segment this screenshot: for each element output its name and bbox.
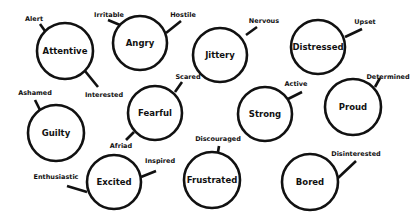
emotion-label-distressed: Distressed (292, 42, 343, 52)
emotion-label-attentive: Attentive (43, 46, 88, 56)
related-emotion-label: Upset (354, 18, 375, 26)
related-emotion-label: Active (285, 80, 308, 88)
emotion-label-angry: Angry (126, 38, 154, 48)
spoke-line (246, 27, 257, 35)
diagram-graphics (0, 0, 420, 224)
spoke-line (67, 186, 87, 192)
related-emotion-label: Enthusiastic (34, 173, 79, 181)
related-emotion-label: Hostile (170, 11, 196, 19)
emotion-label-fearful: Fearful (138, 108, 172, 118)
spoke-line (175, 82, 182, 92)
related-emotion-label: Scared (175, 73, 200, 81)
spoke-line (218, 146, 219, 152)
related-emotion-label: Afriad (110, 142, 132, 150)
emotion-label-strong: Strong (249, 109, 281, 119)
related-emotion-label: Disinterested (331, 150, 381, 158)
spoke-line (338, 161, 356, 178)
related-emotion-label: Interested (85, 91, 123, 99)
related-emotion-label: Irritable (94, 11, 124, 19)
spoke-line (35, 100, 40, 110)
spoke-line (85, 71, 98, 87)
related-emotion-label: Alert (25, 15, 43, 23)
related-emotion-label: Discouraged (195, 135, 241, 143)
spoke-line (108, 20, 120, 25)
spoke-line (126, 132, 134, 140)
emotion-label-frustrated: Frustrated (187, 175, 237, 185)
emotion-label-excited: Excited (96, 177, 131, 187)
spoke-line (40, 24, 45, 31)
spoke-line (288, 92, 302, 99)
emotion-label-proud: Proud (339, 102, 367, 112)
related-emotion-label: Inspired (145, 157, 175, 165)
emotion-diagram: AttentiveAlertInterestedAngryIrritableHo… (0, 0, 420, 224)
related-emotion-label: Nervous (249, 17, 279, 25)
spoke-line (166, 21, 181, 33)
emotion-label-guilty: Guilty (42, 128, 70, 138)
emotion-label-jittery: Jittery (205, 50, 235, 60)
emotion-label-bored: Bored (296, 177, 324, 187)
related-emotion-label: Determined (366, 73, 409, 81)
related-emotion-label: Ashamed (18, 89, 52, 97)
spoke-line (345, 29, 362, 37)
spoke-line (141, 171, 156, 177)
